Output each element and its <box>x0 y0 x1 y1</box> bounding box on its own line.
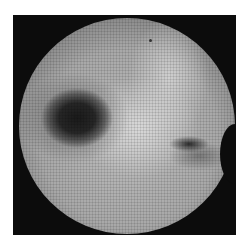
image-frame <box>13 15 236 235</box>
fiber-honeycomb-pattern <box>19 18 235 234</box>
endoscope-view <box>19 18 235 234</box>
speck-top <box>149 39 152 42</box>
